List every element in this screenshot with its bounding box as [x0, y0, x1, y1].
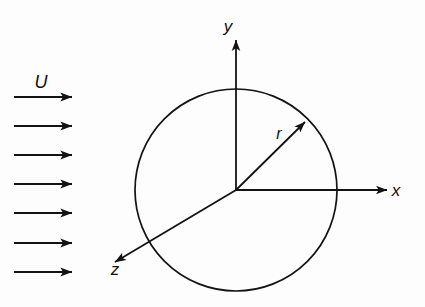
- diagram-canvas: U r x y z: [0, 0, 425, 307]
- freestream-velocity-label: U: [35, 72, 49, 92]
- radial-vector-line: [236, 122, 305, 190]
- flow-past-cylinder-diagram: U r x y z: [0, 0, 425, 307]
- x-axis-label: x: [391, 181, 401, 200]
- y-axis-label: y: [223, 17, 234, 36]
- z-axis-label: z: [110, 260, 120, 279]
- freestream-arrow-group: [14, 97, 72, 272]
- z-axis-line: [115, 190, 236, 262]
- radial-coordinate-label: r: [276, 125, 282, 142]
